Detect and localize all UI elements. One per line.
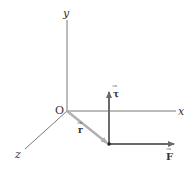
torque-vector-label: τ: [113, 89, 119, 99]
z-axis-label: z: [14, 148, 21, 161]
application-point: [107, 142, 111, 146]
y-axis-label: y: [62, 7, 70, 20]
position-vector-label: r: [78, 125, 83, 135]
force-vector-label: F: [166, 151, 173, 162]
origin-label: O: [55, 104, 64, 117]
tau-arrow-accent: →: [112, 82, 117, 89]
x-axis-label: x: [178, 105, 185, 118]
position-vector-r: [67, 111, 107, 143]
torque-diagram: y x z O → r → τ → F: [0, 0, 195, 174]
